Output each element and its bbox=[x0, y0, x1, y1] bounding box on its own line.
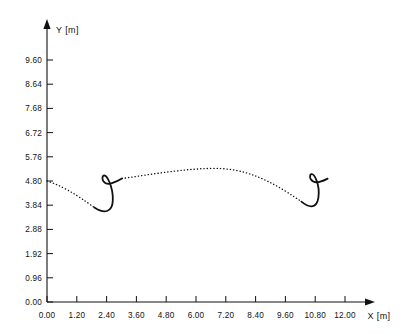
y-axis-title: Y [m] bbox=[56, 25, 79, 35]
y-tick-label: 3.84 bbox=[25, 201, 42, 210]
y-tick-label: 0.96 bbox=[25, 274, 42, 283]
x-tick-label: 8.40 bbox=[247, 311, 264, 320]
x-tick-label: 3.60 bbox=[128, 311, 145, 320]
x-tick-label: 7.20 bbox=[217, 311, 234, 320]
y-tick-label: 8.64 bbox=[25, 80, 42, 89]
trajectory-loop-right bbox=[301, 174, 327, 206]
axes-group bbox=[43, 19, 375, 306]
x-axis-ticks-group: 0.00 1.20 2.40 3.60 4.80 6.00 7.20 8.40 … bbox=[39, 296, 356, 320]
y-tick-label: 5.76 bbox=[25, 153, 42, 162]
x-axis-arrow-icon bbox=[365, 298, 375, 305]
trajectory-dotted-segment-middle bbox=[122, 168, 301, 201]
x-tick-label: 12.00 bbox=[334, 311, 356, 320]
x-tick-label: 10.80 bbox=[304, 311, 326, 320]
y-tick-label: 0.00 bbox=[25, 298, 42, 307]
x-tick-label: 4.80 bbox=[158, 311, 175, 320]
x-tick-label: 1.20 bbox=[68, 311, 85, 320]
y-tick-label: 6.72 bbox=[25, 129, 42, 138]
x-tick-label: 6.00 bbox=[188, 311, 205, 320]
x-tick-label: 2.40 bbox=[98, 311, 115, 320]
trajectory-dotted-segment-left bbox=[47, 181, 94, 208]
x-tick-label: 9.60 bbox=[277, 311, 294, 320]
trajectory-group bbox=[47, 168, 328, 211]
chart-svg: 0.00 0.96 1.92 2.88 3.84 4.80 5.76 6.72 … bbox=[0, 0, 405, 333]
trajectory-loop-left bbox=[94, 176, 122, 212]
y-tick-label: 4.80 bbox=[25, 177, 42, 186]
y-tick-label: 2.88 bbox=[25, 225, 42, 234]
x-axis-title: X [m] bbox=[367, 311, 390, 321]
y-axis-arrow-icon bbox=[43, 19, 50, 29]
y-tick-label: 7.68 bbox=[25, 104, 42, 113]
y-axis-ticks-group: 0.00 0.96 1.92 2.88 3.84 4.80 5.76 6.72 … bbox=[25, 56, 53, 307]
chart-figure: 0.00 0.96 1.92 2.88 3.84 4.80 5.76 6.72 … bbox=[0, 0, 405, 333]
x-tick-label: 0.00 bbox=[39, 311, 56, 320]
y-tick-label: 9.60 bbox=[25, 56, 42, 65]
y-tick-label: 1.92 bbox=[25, 250, 42, 259]
